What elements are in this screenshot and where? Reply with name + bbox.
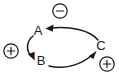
- edge-c-to-a: [46, 25, 99, 40]
- edge-a-to-b: [27, 36, 34, 61]
- cycle-diagram: A B C: [0, 0, 119, 77]
- edge-c-to-a-path: [51, 28, 98, 41]
- sign-plus-right-icon: [100, 57, 114, 71]
- edge-b-to-c: [49, 51, 97, 67]
- sign-plus-left-icon: [4, 44, 18, 58]
- edge-c-to-a-arrowhead: [46, 25, 54, 32]
- node-label-c: C: [96, 38, 105, 53]
- node-label-a: A: [34, 23, 43, 38]
- diagram-canvas: A B C: [0, 0, 119, 77]
- sign-minus-top-icon: [53, 4, 67, 18]
- node-label-b: B: [37, 53, 46, 68]
- edge-b-to-c-path: [49, 55, 92, 67]
